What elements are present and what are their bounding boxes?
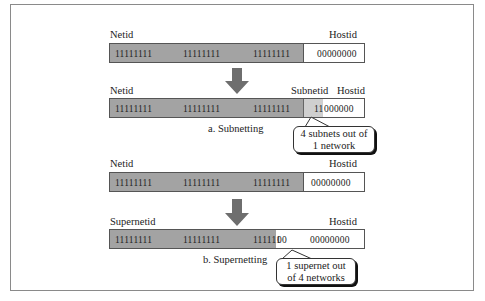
supernet-callout: 1 supernet out of 4 networks [276, 258, 356, 285]
callout-line-1: 1 supernet out [277, 260, 355, 272]
callout-line-2: of 4 networks [277, 272, 355, 284]
callout-pointer [0, 0, 485, 301]
